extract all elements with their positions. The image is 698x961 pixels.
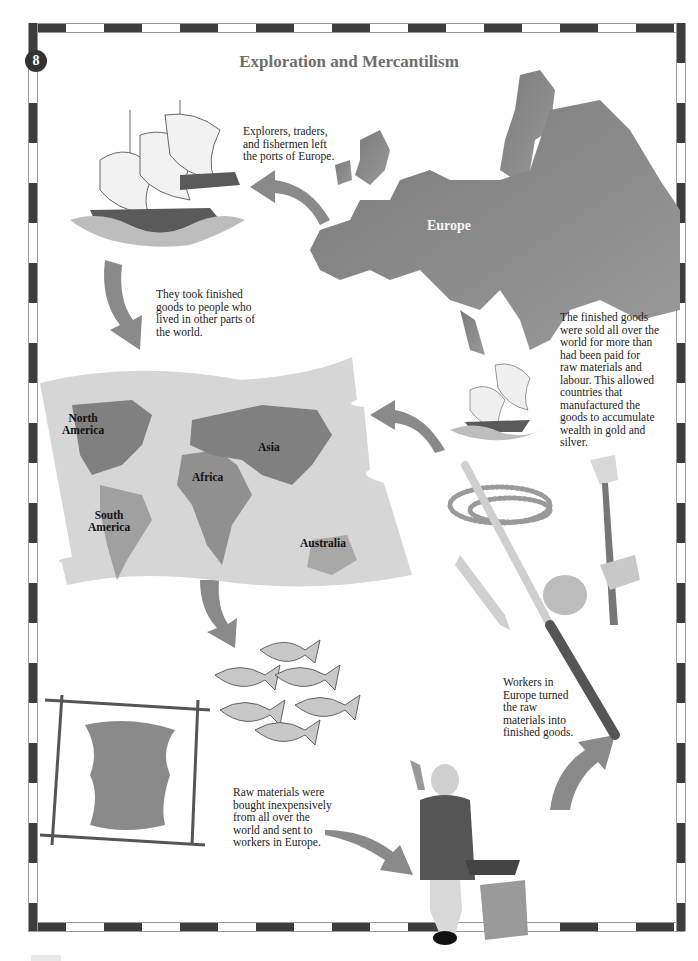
stretched-hide-illustration [40,695,220,845]
page-title: Exploration and Mercantilism [0,52,698,72]
map-label-asia: Asia [258,441,280,453]
map-label-south-america: South America [88,509,130,533]
caption-raw-materials: Raw materials were bought inexpensively … [233,786,333,849]
map-label-north-america: North America [62,412,104,436]
blacksmith-worker-illustration [400,760,550,945]
map-label-australia: Australia [300,537,346,549]
frame-border-top [28,23,685,33]
map-label-africa: Africa [192,471,223,483]
footer-marker [31,955,61,961]
caption-workers: Workers in Europe turned the raw materia… [503,676,578,739]
arrow-europe-to-ships [250,165,335,225]
school-of-fish-illustration [205,635,395,750]
frame-border-bottom [28,922,685,932]
map-label-europe: Europe [427,218,471,234]
small-ships-illustration [450,350,550,440]
caption-sold-worldwide: The finished goods were sold all over th… [560,311,660,449]
caption-explorers: Explorers, traders, and fishermen left t… [243,125,343,163]
world-map-parchment [12,345,412,595]
arrow-ships-to-world [100,260,150,350]
caption-finished-goods-out: They took finished goods to people who l… [156,288,256,338]
ships-illustration [70,100,260,250]
